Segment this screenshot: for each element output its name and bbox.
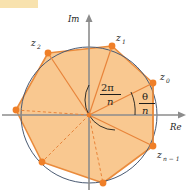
- central-angle-denominator: n: [107, 96, 113, 107]
- real-axis-arrowhead: [178, 112, 186, 119]
- point-label-z1-base: z: [115, 33, 121, 43]
- point-label-z0-sub: 0: [166, 77, 170, 84]
- point-label-z1: z 1: [115, 33, 126, 45]
- point-label-z2-base: z: [30, 38, 36, 48]
- point-label-zn-1: z n − 1: [156, 150, 180, 162]
- imaginary-axis-arrowhead: [86, 14, 93, 22]
- vertex-dot-z5: [100, 180, 107, 187]
- complex-roots-diagram: Im Re z 0 z 1 z 2 z n − 1 2π n θ n: [0, 0, 193, 194]
- vertex-dot-z1: [109, 43, 116, 50]
- vertex-dot-z2: [45, 50, 52, 57]
- point-label-z2: z 2: [30, 38, 41, 50]
- point-label-z2-sub: 2: [36, 43, 41, 50]
- point-label-zn-1-sub: n − 1: [163, 155, 180, 162]
- vertex-dot-zn-1: [150, 143, 157, 150]
- real-axis-label: Re: [169, 122, 181, 132]
- offset-angle-denominator: n: [142, 105, 148, 116]
- vertex-dot-z3: [13, 107, 20, 114]
- point-label-zn-1-base: z: [156, 150, 162, 160]
- offset-angle-numerator: θ: [142, 91, 148, 102]
- vertex-dot-z0: [150, 80, 157, 87]
- origin-dot: [87, 113, 91, 117]
- central-angle-numerator: 2π: [101, 82, 114, 93]
- vertex-dot-z4: [39, 159, 46, 166]
- point-label-z0-base: z: [159, 72, 165, 82]
- point-label-z1-sub: 1: [122, 38, 126, 45]
- imaginary-axis-label: Im: [67, 14, 79, 24]
- point-label-z0: z 0: [159, 72, 170, 84]
- figure-canvas: Im Re z 0 z 1 z 2 z n − 1 2π n θ n: [0, 0, 193, 194]
